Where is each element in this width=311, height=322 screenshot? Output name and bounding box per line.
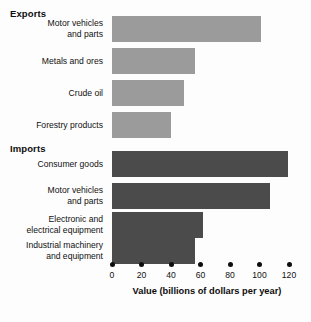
bar-category-label: Motor vehicles and parts <box>0 18 103 40</box>
bar-track <box>112 80 302 106</box>
bar <box>112 183 270 209</box>
bar-track <box>112 238 302 264</box>
bar-track <box>112 212 302 238</box>
x-axis-tick-mark <box>110 262 115 267</box>
bar-chart: Exports Imports Motor vehicles and parts… <box>0 0 311 322</box>
x-axis-tick-mark <box>198 262 203 267</box>
bar-row: Motor vehicles and parts <box>0 183 311 209</box>
bar-category-label: Metals and ores <box>0 56 103 67</box>
bar-row: Forestry products <box>0 112 311 138</box>
x-axis-tick-mark <box>228 262 233 267</box>
bar-category-label: Forestry products <box>0 120 103 131</box>
bar-row: Electronic and electrical equipment <box>0 212 311 238</box>
x-axis-tick-label: 60 <box>196 270 206 280</box>
x-axis-tick-mark <box>169 262 174 267</box>
bar-category-label: Consumer goods <box>0 159 103 170</box>
bar <box>112 48 195 74</box>
bar-track <box>112 16 302 42</box>
bar-row: Crude oil <box>0 80 311 106</box>
x-axis-tick-mark <box>139 262 144 267</box>
x-axis-tick-label: 120 <box>282 270 296 280</box>
bar-category-label: Industrial machinery and equipment <box>0 240 103 262</box>
bar-track <box>112 183 302 209</box>
bar-category-label: Motor vehicles and parts <box>0 185 103 207</box>
bar <box>112 151 288 177</box>
bar-row: Industrial machinery and equipment <box>0 238 311 264</box>
x-axis-tick-label: 100 <box>252 270 266 280</box>
bar <box>112 212 203 238</box>
x-axis: 020406080100120 Value (billions of dolla… <box>0 262 311 322</box>
bar-track <box>112 48 302 74</box>
bar <box>112 16 261 42</box>
bar <box>112 112 171 138</box>
bar-row: Motor vehicles and parts <box>0 16 311 42</box>
bar <box>112 238 195 264</box>
bar <box>112 80 184 106</box>
bar-row: Metals and ores <box>0 48 311 74</box>
x-axis-tick-mark <box>287 262 292 267</box>
bar-row: Consumer goods <box>0 151 311 177</box>
bar-track <box>112 151 302 177</box>
x-axis-tick-label: 0 <box>110 270 115 280</box>
bar-category-label: Crude oil <box>0 88 103 99</box>
bar-category-label: Electronic and electrical equipment <box>0 214 103 236</box>
x-axis-tick-label: 80 <box>225 270 235 280</box>
x-axis-tick-mark <box>257 262 262 267</box>
x-axis-tick-label: 40 <box>166 270 176 280</box>
bar-track <box>112 112 302 138</box>
x-axis-tick-label: 20 <box>137 270 147 280</box>
x-axis-title: Value (billions of dollars per year) <box>112 286 302 296</box>
